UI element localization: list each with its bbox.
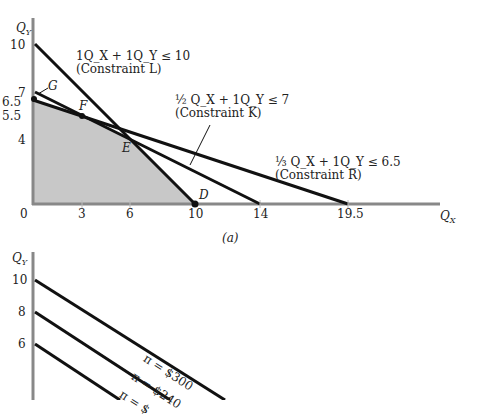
y-tick-bottom-10: 10 [12,273,27,287]
y-tick-bottom-8: 8 [18,305,26,319]
constraint-l-label: 1Q_X + 1Q_Y ≤ 10 (Constraint L) [76,50,190,76]
x-tick-3: 3 [78,207,86,221]
point-f [79,113,85,119]
point-label-g: G [48,80,58,93]
point-g [31,96,37,102]
x-tick-6: 6 [126,207,134,221]
x-tick-19-5: 19.5 [337,207,364,221]
x-tick-14: 14 [253,207,268,221]
point-label-d: D [199,189,209,202]
y-tick-5-5: 5.5 [2,109,21,123]
feasible-region [33,100,195,204]
isoprofit-180-line [35,344,120,400]
constraint-k-label: ½ Q_X + 1Q_Y ≤ 7 (Constraint K) [175,94,289,120]
point-label-e: E [122,142,131,155]
y-axis-label-top: QY [16,22,31,39]
y-axis-label-bottom: QY [12,252,27,269]
y-tick-4: 4 [18,133,26,147]
g-pointer [38,88,48,94]
constraint-r-label: ⅓ Q_X + 1Q_Y ≤ 6.5 (Constraint R) [275,156,401,182]
x-tick-0: 0 [20,207,28,221]
y-tick-10: 10 [10,38,25,52]
x-tick-10: 10 [188,207,203,221]
panel-label-a: (a) [222,232,239,245]
x-axis-label-top: QX [440,210,456,227]
point-label-f: F [79,100,87,113]
y-tick-6-5: 6.5 [2,95,21,109]
y-tick-bottom-6: 6 [18,337,26,351]
